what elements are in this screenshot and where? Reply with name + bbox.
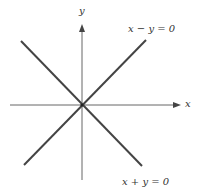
coordinate-diagram: y x x − y = 0 x + y = 0: [0, 0, 200, 194]
equation-label-x-plus-y: x + y = 0: [122, 177, 169, 187]
line-x-minus-y: [24, 40, 146, 165]
equation-label-x-minus-y: x − y = 0: [128, 24, 175, 34]
x-axis-arrow-icon: [173, 102, 181, 108]
y-axis-arrow-icon: [79, 24, 85, 32]
y-axis-label: y: [79, 6, 85, 16]
x-axis-label: x: [185, 99, 191, 109]
origin-point: [80, 103, 83, 106]
